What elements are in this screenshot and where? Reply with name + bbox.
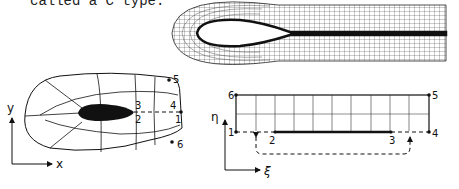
axis-xi-label: ξ xyxy=(263,164,271,178)
point-label-6: 6 xyxy=(228,90,234,101)
point-label-1: 1 xyxy=(175,114,181,125)
point-label-2: 2 xyxy=(269,135,275,146)
point-label-6: 6 xyxy=(177,139,183,150)
point-label-5: 5 xyxy=(173,74,179,85)
axis-eta-label: η xyxy=(211,110,219,124)
computational-domain: 6 5 1 4 2 3 η ξ xyxy=(211,90,438,178)
point-label-4: 4 xyxy=(170,100,176,111)
point-label-2: 2 xyxy=(135,114,141,125)
point-label-3: 3 xyxy=(135,100,141,111)
axis-x-label: x xyxy=(56,157,63,171)
point-label-3: 3 xyxy=(389,135,395,146)
c-grid-diagram: 5 3 2 4 1 6 y x 6 5 1 4 xyxy=(0,0,459,189)
physical-domain: 5 3 2 4 1 6 y x xyxy=(7,73,183,171)
point-label-4: 4 xyxy=(432,128,438,139)
point-label-5: 5 xyxy=(432,90,438,101)
axis-y-label: y xyxy=(7,101,14,115)
airfoil-c-grid xyxy=(172,2,446,65)
point-label-1: 1 xyxy=(228,127,234,138)
